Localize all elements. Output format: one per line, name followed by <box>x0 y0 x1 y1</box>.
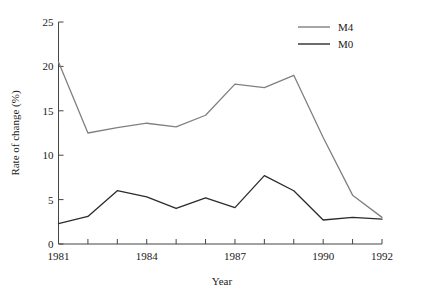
line-chart: 0510152025 19811984198719901992 M4M0 Rat… <box>0 0 429 293</box>
y-tick-label: 25 <box>43 16 55 28</box>
y-axis: 0510152025 <box>43 16 64 250</box>
y-tick-label: 0 <box>48 238 54 250</box>
y-tick-label: 10 <box>43 149 55 161</box>
x-tick-label: 1990 <box>312 250 335 262</box>
x-axis: 19811984198719901992 <box>48 239 394 262</box>
y-axis-title: Rate of change (%) <box>9 90 22 176</box>
x-tick-label: 1984 <box>136 250 159 262</box>
legend-label-m0: M0 <box>338 38 354 50</box>
chart-canvas: 0510152025 19811984198719901992 M4M0 Rat… <box>0 0 429 293</box>
x-axis-title: Year <box>212 275 233 287</box>
chart-legend: M4M0 <box>298 21 354 50</box>
y-tick-label: 5 <box>48 194 54 206</box>
series-lines <box>59 62 383 224</box>
x-tick-label: 1987 <box>224 250 247 262</box>
legend-label-m4: M4 <box>338 21 354 33</box>
y-tick-label: 15 <box>43 105 55 117</box>
series-line-m0 <box>59 176 383 224</box>
x-tick-label: 1981 <box>48 250 70 262</box>
y-tick-label: 20 <box>43 60 55 72</box>
x-tick-label: 1992 <box>371 250 393 262</box>
series-line-m4 <box>59 62 383 217</box>
